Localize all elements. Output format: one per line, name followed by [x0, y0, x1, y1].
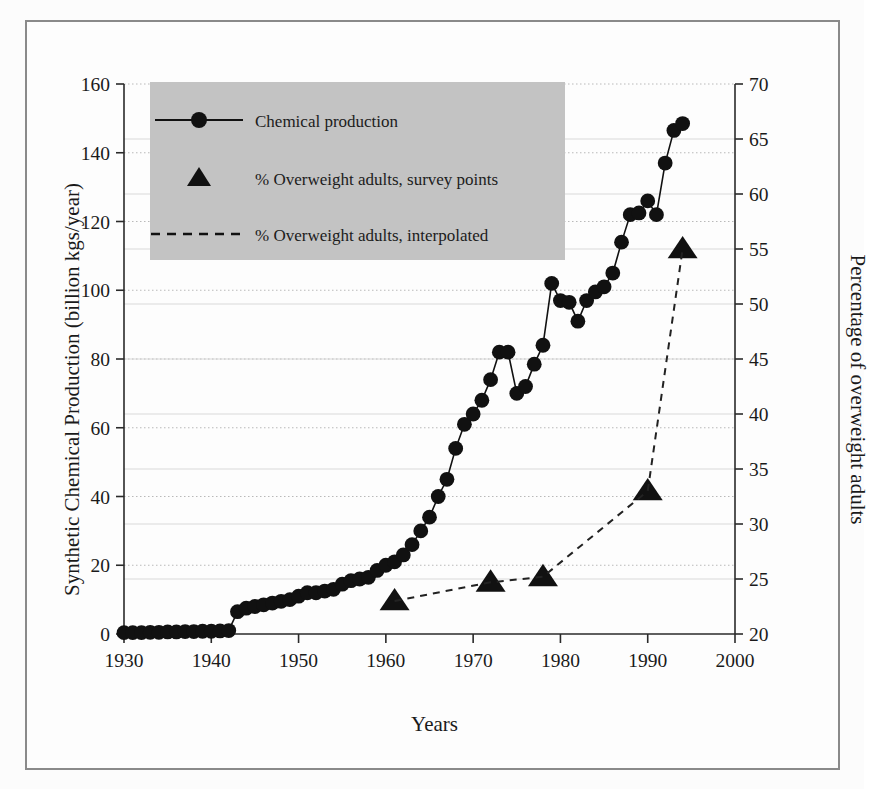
y-tick-label-left-140: 140 [81, 143, 110, 164]
data-point-chemical-1992 [658, 156, 673, 171]
data-point-chemical-1971 [474, 393, 489, 408]
data-point-chemical-1981 [562, 295, 577, 310]
data-point-chemical-1990 [640, 193, 655, 208]
data-point-chemical-1942 [221, 623, 236, 638]
y-tick-label-right-65: 65 [749, 129, 769, 150]
data-point-chemical-1991 [649, 207, 664, 222]
x-tick-label-1950: 1950 [279, 650, 318, 671]
y-tick-label-right-30: 30 [749, 514, 769, 535]
figure-frame: 0204060801001201401602025303540455055606… [25, 20, 840, 770]
y-tick-label-right-25: 25 [749, 569, 769, 590]
x-tick-label-1940: 1940 [192, 650, 231, 671]
y-tick-label-left-0: 0 [100, 624, 110, 645]
y-tick-label-left-80: 80 [91, 349, 111, 370]
legend-label-0: Chemical production [255, 112, 399, 131]
data-point-chemical-1982 [570, 314, 585, 329]
y-axis-left-title: Synthetic Chemical Production (billion k… [60, 155, 85, 625]
data-point-chemical-1965 [422, 510, 437, 525]
y-tick-label-left-100: 100 [81, 280, 110, 301]
y-tick-label-left-120: 120 [81, 212, 110, 233]
data-point-chemical-1979 [544, 276, 559, 291]
data-point-chemical-1966 [431, 489, 446, 504]
y-tick-label-right-35: 35 [749, 459, 769, 480]
y-tick-label-right-70: 70 [749, 74, 769, 95]
y-tick-label-right-50: 50 [749, 294, 769, 315]
y-tick-label-left-60: 60 [91, 418, 111, 439]
data-point-chemical-1987 [614, 235, 629, 250]
x-tick-label-1970: 1970 [454, 650, 493, 671]
y-tick-label-left-40: 40 [91, 487, 111, 508]
series-line-overweight-interpolated [395, 249, 683, 601]
data-point-chemical-1974 [501, 345, 516, 360]
data-point-chemical-1963 [405, 537, 420, 552]
data-point-chemical-1994 [675, 116, 690, 131]
legend-label-2: % Overweight adults, interpolated [255, 226, 489, 245]
x-tick-label-1980: 1980 [541, 650, 580, 671]
y-tick-label-right-55: 55 [749, 239, 769, 260]
data-point-chemical-1967 [440, 472, 455, 487]
y-tick-label-right-20: 20 [749, 624, 769, 645]
data-point-chemical-1968 [448, 441, 463, 456]
chart-canvas: 0204060801001201401602025303540455055606… [27, 22, 838, 768]
data-point-chemical-1976 [518, 379, 533, 394]
y-tick-label-left-20: 20 [91, 555, 111, 576]
y-tick-label-left-160: 160 [81, 74, 110, 95]
data-point-chemical-1977 [527, 357, 542, 372]
y-tick-label-right-40: 40 [749, 404, 769, 425]
data-point-overweight-1961 [380, 588, 410, 610]
x-axis-title: Years [27, 712, 842, 737]
legend-label-1: % Overweight adults, survey points [255, 170, 498, 189]
y-tick-label-right-60: 60 [749, 184, 769, 205]
data-point-overweight-1978 [528, 564, 558, 586]
data-point-chemical-1972 [483, 372, 498, 387]
data-point-chemical-1986 [605, 266, 620, 281]
x-tick-label-1960: 1960 [366, 650, 405, 671]
x-tick-label-2000: 2000 [716, 650, 755, 671]
y-axis-right-title: Percentage of overweight adults [845, 155, 870, 625]
x-tick-label-1930: 1930 [105, 650, 144, 671]
data-point-chemical-1970 [466, 407, 481, 422]
data-point-chemical-1985 [597, 279, 612, 294]
data-point-chemical-1978 [536, 338, 551, 353]
legend-circle-icon [191, 112, 207, 128]
data-point-chemical-1989 [632, 206, 647, 221]
data-point-chemical-1964 [413, 523, 428, 538]
y-tick-label-right-45: 45 [749, 349, 769, 370]
x-tick-label-1990: 1990 [628, 650, 667, 671]
